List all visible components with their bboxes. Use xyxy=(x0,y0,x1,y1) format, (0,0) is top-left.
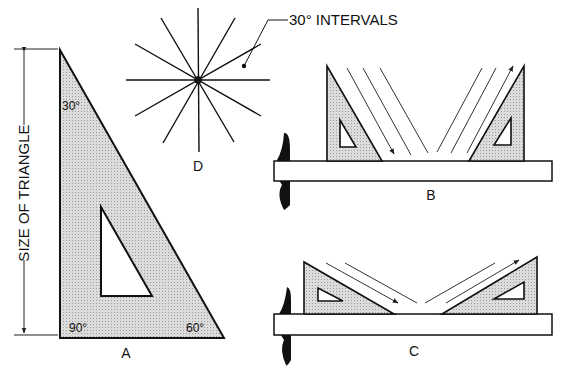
size-of-triangle-label: SIZE OF TRIANGLE xyxy=(15,124,32,261)
intervals-label: 30° INTERVALS xyxy=(289,11,398,28)
angle-30-label: 30° xyxy=(62,99,80,113)
panel-b-label: B xyxy=(426,187,435,203)
angle-60-label: 60° xyxy=(186,321,204,335)
triangle-diagram: SIZE OF TRIANGLE 30° 90° 60° A D 30° INT… xyxy=(0,0,564,390)
panel-d-star xyxy=(126,8,288,152)
panel-d-label: D xyxy=(193,158,203,174)
panel-c-label: C xyxy=(409,343,419,359)
panel-a-label: A xyxy=(121,345,131,361)
panel-b-setup xyxy=(274,66,552,210)
angle-90-label: 90° xyxy=(69,321,87,335)
